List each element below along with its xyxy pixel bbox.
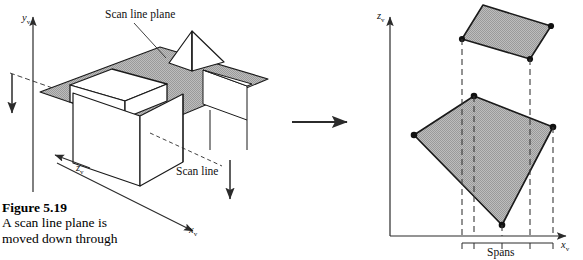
caption-line-1: A scan line plane is (2, 215, 192, 230)
vertex-dot (411, 132, 418, 139)
figure-number: Figure 5.19 (2, 200, 192, 215)
z-axis-label-left: zv (76, 162, 84, 176)
z-axis-subscript: v (80, 168, 84, 176)
y-axis-subscript: v (27, 18, 31, 26)
scan-line-plane-label: Scan line plane (105, 8, 175, 20)
caption-line-2: moved down through (2, 231, 192, 246)
upper-quadrilateral (462, 5, 551, 59)
right-panel-cross-section (390, 5, 566, 249)
vertex-dot (548, 23, 554, 29)
spans-label: Spans (487, 246, 514, 258)
lower-quadrilateral (414, 96, 553, 225)
y-axis-label-left: yv (22, 12, 30, 26)
figure-caption: Figure 5.19 A scan line plane is moved d… (2, 200, 192, 246)
left-panel-3d-scene (10, 17, 268, 231)
z-axis-label-right: zv (377, 10, 385, 24)
x-axis-subscript: v (194, 230, 198, 238)
scan-line-label: Scan line (176, 165, 218, 177)
z-axis-subscript: v (381, 16, 385, 24)
x-axis-label-right: xv (561, 239, 569, 253)
x-axis-subscript: v (566, 245, 570, 253)
